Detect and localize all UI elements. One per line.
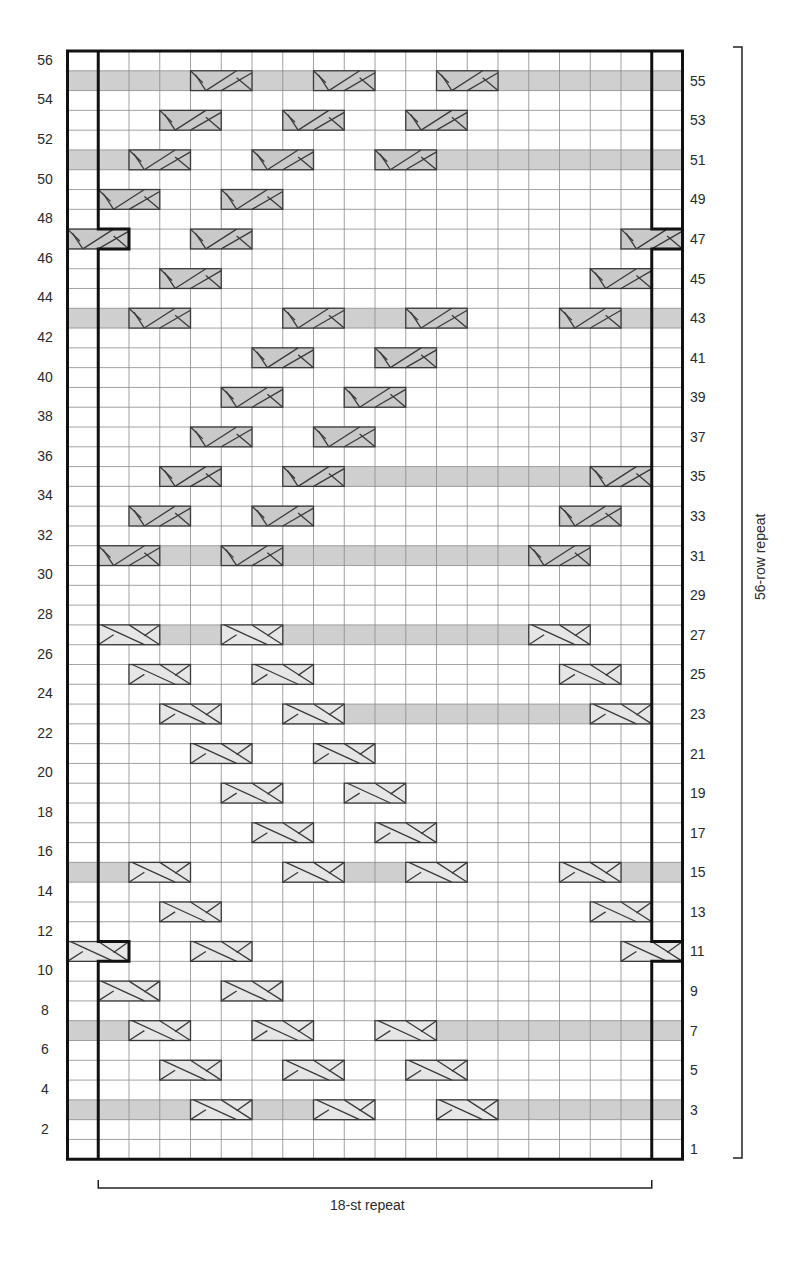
row-number-label: 34: [30, 488, 60, 502]
right-cross-cable-icon: [129, 664, 191, 684]
right-cross-cable-icon: [221, 783, 283, 803]
left-cross-cable-icon: [314, 71, 376, 91]
row-number-label: 25: [690, 667, 714, 681]
right-cross-cable-icon: [221, 981, 283, 1001]
right-cross-cable-icon: [221, 625, 283, 645]
left-cross-cable-icon: [283, 308, 345, 328]
row-number-label: 31: [690, 549, 714, 563]
row-number-label: 7: [690, 1024, 714, 1038]
right-cross-cable-icon: [98, 981, 160, 1001]
row-number-label: 13: [690, 905, 714, 919]
row-number-label: 22: [30, 726, 60, 740]
row-number-label: 10: [30, 963, 60, 977]
row-number-label: 33: [690, 509, 714, 523]
row-number-label: 4: [30, 1082, 60, 1096]
right-cross-cable-icon: [560, 664, 622, 684]
left-cross-cable-icon: [68, 229, 130, 249]
left-cross-cable-icon: [406, 110, 468, 130]
row-number-label: 16: [30, 844, 60, 858]
row-number-label: 11: [690, 944, 714, 958]
row-number-label: 49: [690, 192, 714, 206]
row-number-label: 19: [690, 786, 714, 800]
left-cross-cable-icon: [191, 71, 253, 91]
left-cross-cable-icon: [160, 269, 222, 289]
row-number-label: 32: [30, 528, 60, 542]
left-cross-cable-icon: [283, 110, 345, 130]
row-number-label: 3: [690, 1103, 714, 1117]
left-cross-cable-icon: [375, 150, 437, 170]
left-cross-cable-icon: [529, 546, 591, 566]
right-cross-cable-icon: [283, 862, 345, 882]
row-number-label: 44: [30, 290, 60, 304]
row-number-label: 18: [30, 805, 60, 819]
right-cross-cable-icon: [191, 744, 253, 764]
right-cross-cable-icon: [529, 625, 591, 645]
row-number-label: 29: [690, 588, 714, 602]
left-cross-cable-icon: [590, 467, 652, 487]
row-number-label: 55: [690, 74, 714, 88]
right-cross-cable-icon: [283, 704, 345, 724]
left-cross-cable-icon: [375, 348, 437, 368]
left-cross-cable-icon: [406, 308, 468, 328]
left-cross-cable-icon: [221, 546, 283, 566]
left-cross-cable-icon: [221, 190, 283, 210]
row-number-label: 27: [690, 628, 714, 642]
row-number-label: 52: [30, 132, 60, 146]
row-number-label: 45: [690, 272, 714, 286]
stitch-repeat-label: 18-st repeat: [330, 1197, 405, 1213]
row-number-label: 30: [30, 567, 60, 581]
row-number-label: 35: [690, 469, 714, 483]
row-number-label: 21: [690, 747, 714, 761]
right-cross-cable-icon: [621, 942, 683, 962]
right-cross-cable-icon: [68, 942, 130, 962]
row-number-label: 15: [690, 865, 714, 879]
row-number-label: 14: [30, 884, 60, 898]
row-number-label: 36: [30, 449, 60, 463]
left-cross-cable-icon: [344, 387, 406, 407]
row-number-label: 20: [30, 765, 60, 779]
right-cross-cable-icon: [406, 1060, 468, 1080]
left-cross-cable-icon: [252, 348, 314, 368]
row-number-label: 41: [690, 351, 714, 365]
right-cross-cable-icon: [129, 1021, 191, 1041]
row-number-label: 17: [690, 826, 714, 840]
right-cross-cable-icon: [344, 783, 406, 803]
right-cross-cable-icon: [252, 1021, 314, 1041]
row-number-label: 9: [690, 984, 714, 998]
left-cross-cable-icon: [160, 110, 222, 130]
left-cross-cable-icon: [221, 387, 283, 407]
row-repeat-label: 56-row repeat: [752, 514, 768, 600]
left-cross-cable-icon: [191, 427, 253, 447]
row-number-label: 56: [30, 53, 60, 67]
row-number-label: 5: [690, 1063, 714, 1077]
row-number-label: 48: [30, 211, 60, 225]
right-cross-cable-icon: [560, 862, 622, 882]
left-cross-cable-icon: [160, 467, 222, 487]
left-cross-cable-icon: [314, 427, 376, 447]
right-cross-cable-icon: [191, 942, 253, 962]
row-number-label: 37: [690, 430, 714, 444]
row-number-label: 12: [30, 924, 60, 938]
right-cross-cable-icon: [98, 625, 160, 645]
row-repeat-bracket: [733, 47, 742, 1158]
row-number-label: 1: [690, 1142, 714, 1156]
right-cross-cable-icon: [590, 902, 652, 922]
knitting-chart: [0, 0, 808, 1263]
row-number-label: 50: [30, 172, 60, 186]
row-number-label: 28: [30, 607, 60, 621]
right-cross-cable-icon: [406, 862, 468, 882]
right-cross-cable-icon: [283, 1060, 345, 1080]
left-cross-cable-icon: [590, 269, 652, 289]
row-number-label: 42: [30, 330, 60, 344]
left-cross-cable-icon: [129, 506, 191, 526]
left-cross-cable-icon: [560, 506, 622, 526]
right-cross-cable-icon: [375, 1021, 437, 1041]
row-number-label: 53: [690, 113, 714, 127]
right-cross-cable-icon: [314, 1100, 376, 1120]
stitch-repeat-bracket: [98, 1180, 652, 1188]
left-cross-cable-icon: [252, 150, 314, 170]
right-cross-cable-icon: [191, 1100, 253, 1120]
row-number-label: 54: [30, 92, 60, 106]
left-cross-cable-icon: [560, 308, 622, 328]
right-cross-cable-icon: [375, 823, 437, 843]
